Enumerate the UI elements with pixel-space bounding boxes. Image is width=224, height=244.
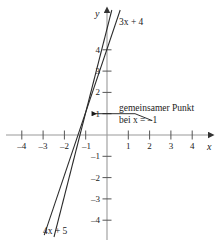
y-tick-label-neg2: –2 <box>84 173 100 182</box>
x-tick-label-neg3: –3 <box>39 142 48 151</box>
x-tick-label-pos2: 2 <box>147 142 152 151</box>
y-tick-label-neg3: –3 <box>84 194 100 203</box>
x-tick-label-neg1: –1 <box>82 142 91 151</box>
line-4x-plus-5 <box>54 10 112 237</box>
callout-text-line-2: bei x = –1 <box>119 115 194 127</box>
graph-figure: y x –4 –3 –2 –1 1 2 3 4 4 3 2 1 –1 –2 –3… <box>0 0 224 244</box>
x-axis-label: x <box>207 142 211 152</box>
y-tick-label-pos1: 1 <box>88 109 100 118</box>
y-tick-label-pos2: 2 <box>88 88 100 97</box>
y-tick-label-pos4: 4 <box>88 45 100 54</box>
line-label-4x-plus-5: 4x + 5 <box>43 227 67 237</box>
x-tick-label-pos4: 4 <box>190 142 195 151</box>
x-tick-label-neg2: –2 <box>60 142 69 151</box>
y-tick-label-neg1: –1 <box>84 152 100 161</box>
intersection-callout: gemeinsamer Punkt bei x = –1 <box>119 103 194 126</box>
y-tick-label-pos3: 3 <box>88 67 100 76</box>
x-tick-label-pos3: 3 <box>169 142 174 151</box>
x-tick-label-neg4: –4 <box>17 142 26 151</box>
callout-text-line-1: gemeinsamer Punkt <box>119 103 194 115</box>
y-axis-label: y <box>95 9 99 19</box>
line-3x-plus-4 <box>44 10 120 235</box>
x-tick-label-pos1: 1 <box>126 142 131 151</box>
y-tick-label-neg4: –4 <box>84 216 100 225</box>
line-label-3x-plus-4: 3x + 4 <box>119 18 143 28</box>
